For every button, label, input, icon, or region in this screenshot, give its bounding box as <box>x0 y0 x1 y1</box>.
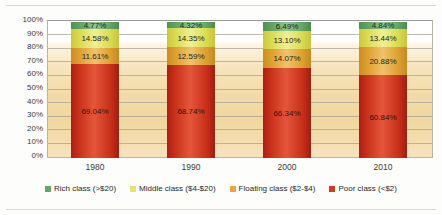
y-axis-tick-label: 30% <box>0 111 43 119</box>
stacked-bar-chart: 0%10%20%30%40%50%60%70%80%90%100% 69.04%… <box>0 0 442 215</box>
y-axis-tick-label: 10% <box>0 138 43 146</box>
figure-bottom-rule <box>6 209 436 210</box>
x-axis-tick-label: 1980 <box>47 162 143 172</box>
x-axis: 1980199020002010 <box>47 162 433 176</box>
y-axis-tick-label: 60% <box>0 70 43 78</box>
y-axis-tick-label: 50% <box>0 84 43 92</box>
legend-item[interactable]: Rich class (>$20) <box>45 184 116 193</box>
y-axis-tick-label: 80% <box>0 43 43 51</box>
x-axis-tick-label: 1990 <box>143 162 239 172</box>
chart-legend: Rich class (>$20)Middle class ($4-$20)Fl… <box>0 184 442 193</box>
y-axis-tick-label: 20% <box>0 125 43 133</box>
gridline <box>48 143 432 144</box>
y-axis-tick-label: 0% <box>0 152 43 160</box>
legend-swatch-icon <box>130 186 136 192</box>
gridline <box>48 75 432 76</box>
gridline <box>48 116 432 117</box>
legend-item[interactable]: Middle class ($4-$20) <box>130 184 215 193</box>
y-axis-tick-label: 100% <box>0 16 43 24</box>
gridline <box>48 34 432 35</box>
gridline <box>48 129 432 130</box>
legend-swatch-icon <box>329 186 335 192</box>
x-axis-tick-label: 2010 <box>335 162 431 172</box>
legend-item-label: Middle class ($4-$20) <box>139 184 215 193</box>
x-axis-tick-label: 2000 <box>239 162 335 172</box>
legend-swatch-icon <box>45 186 51 192</box>
legend-item-label: Poor class (<$2) <box>338 184 396 193</box>
plot-area <box>47 20 433 158</box>
legend-item-label: Floating class ($2-$4) <box>239 184 316 193</box>
y-axis-tick-label: 40% <box>0 98 43 106</box>
legend-item[interactable]: Poor class (<$2) <box>329 184 396 193</box>
gridline <box>48 61 432 62</box>
legend-item-label: Rich class (>$20) <box>54 184 116 193</box>
legend-swatch-icon <box>230 186 236 192</box>
y-axis-tick-label: 70% <box>0 57 43 65</box>
legend-item[interactable]: Floating class ($2-$4) <box>230 184 316 193</box>
figure-top-rule <box>6 5 436 6</box>
gridline <box>48 89 432 90</box>
gridline <box>48 48 432 49</box>
y-axis: 0%10%20%30%40%50%60%70%80%90%100% <box>0 20 43 158</box>
y-axis-tick-label: 90% <box>0 30 43 38</box>
gridline <box>48 102 432 103</box>
